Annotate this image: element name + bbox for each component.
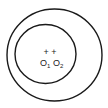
o1-letter: O xyxy=(40,58,47,68)
concentric-circles-diagram: + + O1 O2 xyxy=(0,0,108,108)
center-label-o2: O2 xyxy=(53,58,64,69)
o2-letter: O xyxy=(53,58,60,68)
o1-subscript: 1 xyxy=(47,63,51,69)
center-markers: + + xyxy=(43,47,56,57)
center-label-o1: O1 xyxy=(40,58,51,69)
o2-subscript: 2 xyxy=(60,63,64,69)
